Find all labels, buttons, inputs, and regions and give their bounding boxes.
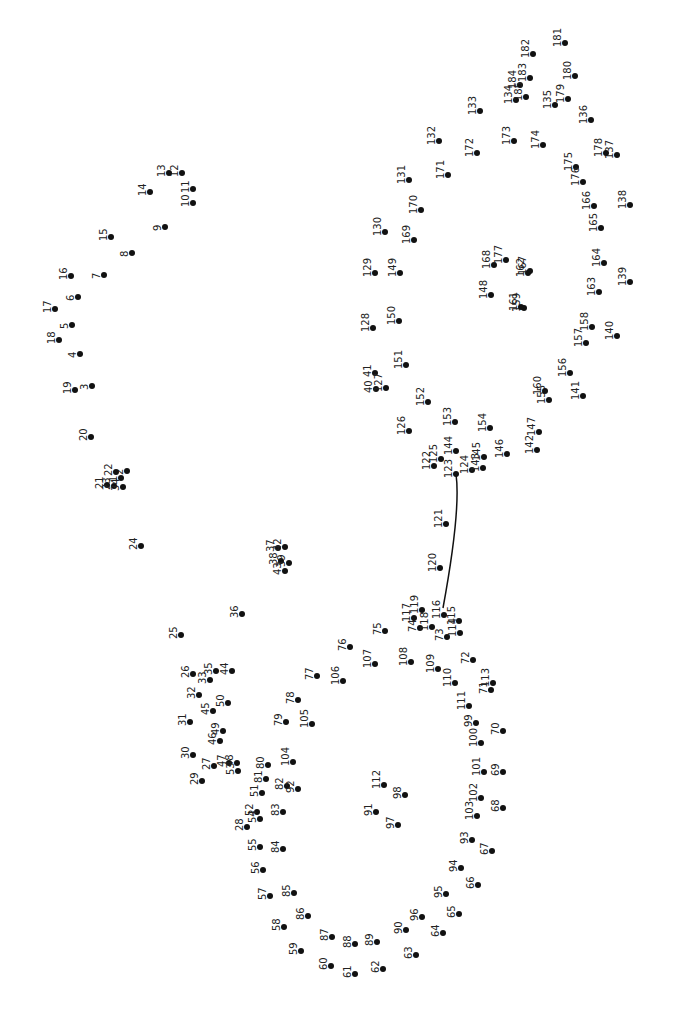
dot-label: 43	[273, 562, 283, 575]
dot-label: 116	[432, 600, 442, 619]
dot-label: 124	[460, 455, 470, 474]
dot-label: 104	[281, 747, 291, 766]
dot-label: 174	[531, 130, 541, 149]
dot-label: 136	[579, 105, 589, 124]
dot-label: 36	[230, 605, 240, 618]
dot-label: 3	[80, 384, 90, 390]
dot-label: 89	[365, 933, 375, 946]
dot-label: 81	[254, 770, 264, 783]
dot-to-dot-canvas: 1234567891011121314151617181920212223242…	[0, 0, 685, 1014]
dot-label: 55	[248, 838, 258, 851]
dot-label: 102	[469, 783, 479, 802]
dot-label: 58	[272, 918, 282, 931]
dot-label: 26	[181, 665, 191, 678]
dot-label: 13	[157, 164, 167, 177]
dot-label: 96	[410, 908, 420, 921]
dot-label: 103	[465, 801, 475, 820]
dot-label: 79	[274, 713, 284, 726]
dot-label: 25	[169, 626, 179, 639]
dot-label: 91	[364, 803, 374, 816]
dot-label: 9	[153, 225, 163, 231]
dot-label: 99	[464, 714, 474, 727]
dot-label: 178	[594, 138, 604, 157]
dot-label: 115	[447, 606, 457, 625]
dot-label: 73	[435, 628, 445, 641]
dot-label: 112	[372, 770, 382, 789]
dot-label: 65	[447, 905, 457, 918]
dot-label: 125	[429, 444, 439, 463]
dot-label: 72	[461, 651, 471, 664]
dot-label: 34	[111, 478, 121, 491]
dot-label: 84	[271, 840, 281, 853]
dot-label: 56	[251, 861, 261, 874]
dot-label: 160	[533, 376, 543, 395]
dot-label: 181	[553, 28, 563, 47]
dot-label: 70	[491, 722, 501, 735]
dot-label: 86	[296, 907, 306, 920]
dot-label: 19	[63, 381, 73, 394]
dot-label: 82	[275, 777, 285, 790]
dot-label: 132	[427, 126, 437, 145]
dot-label: 105	[300, 709, 310, 728]
dot-label: 156	[558, 358, 568, 377]
dot-label: 94	[449, 859, 459, 872]
dot-label: 6	[66, 295, 76, 301]
dot-label: 61	[343, 965, 353, 978]
dot-label: 51	[250, 784, 260, 797]
dot-label: 24	[129, 537, 139, 550]
dot-label: 142	[525, 435, 535, 454]
dot-label: 93	[460, 831, 470, 844]
dot-label: 64	[431, 924, 441, 937]
dot-label: 17	[43, 300, 53, 313]
dot-label: 7	[92, 273, 102, 279]
dot-label: 161	[509, 292, 519, 311]
dot-label: 101	[472, 757, 482, 776]
dot-label: 28	[235, 818, 245, 831]
dot-label: 16	[59, 267, 69, 280]
dot-label: 173	[502, 126, 512, 145]
dot-label: 130	[373, 217, 383, 236]
dot-label: 49	[211, 722, 221, 735]
dot-label: 100	[469, 728, 479, 747]
dot-label: 59	[289, 942, 299, 955]
dot-label: 83	[271, 803, 281, 816]
dot-label: 66	[466, 876, 476, 889]
dot-label: 14	[138, 183, 148, 196]
dot-label: 57	[258, 887, 268, 900]
dot-label: 129	[363, 258, 373, 277]
dot-label: 18	[47, 331, 57, 344]
dot-label: 67	[480, 842, 490, 855]
dot-label: 128	[361, 313, 371, 332]
dot-label: 139	[618, 267, 628, 286]
dot-label: 149	[388, 258, 398, 277]
dot-label: 169	[402, 225, 412, 244]
dot-label: 8	[120, 251, 130, 257]
dot-label: 185	[514, 82, 524, 101]
dot-label: 140	[605, 321, 615, 340]
dot-label: 10	[181, 194, 191, 207]
dot-label: 121	[434, 509, 444, 528]
dot-label: 20	[79, 428, 89, 441]
dot-label: 78	[286, 691, 296, 704]
dot-label: 4	[68, 352, 78, 358]
drawn-line	[0, 0, 685, 1014]
dot-label: 147	[527, 417, 537, 436]
dot-label: 76	[338, 638, 348, 651]
dot-label: 108	[399, 647, 409, 666]
dot-label: 168	[482, 250, 492, 269]
dot-label: 145	[472, 442, 482, 461]
dot-label: 109	[426, 654, 436, 673]
dot-label: 171	[436, 160, 446, 179]
dot-label: 11	[181, 180, 191, 193]
dot-label: 150	[387, 306, 397, 325]
dot-label: 126	[397, 416, 407, 435]
dot-label: 113	[481, 668, 491, 687]
dot-label: 153	[443, 407, 453, 426]
dot-label: 180	[563, 61, 573, 80]
dot-label: 144	[444, 436, 454, 455]
dot-label: 35	[204, 662, 214, 675]
dot-label: 15	[99, 228, 109, 241]
dot-label: 87	[320, 928, 330, 941]
dot-label: 166	[582, 191, 592, 210]
dot-label: 177	[494, 245, 504, 264]
